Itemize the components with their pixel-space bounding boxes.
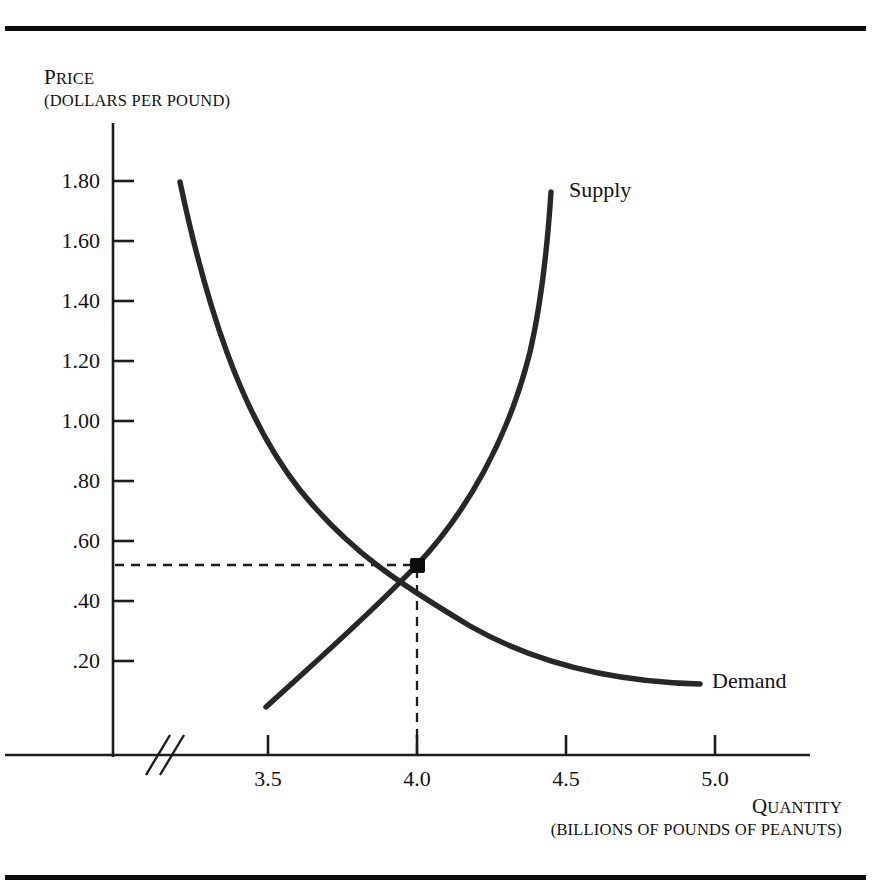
y-tick-label: 1.60 [14,228,100,254]
y-tick-label: .40 [14,588,100,614]
x-axis-title-main: QUANTITY [551,795,842,817]
x-axis-title: QUANTITY (BILLIONS OF POUNDS OF PEANUTS) [551,795,842,838]
y-tick-label: 1.40 [14,288,100,314]
y-tick-label: 1.80 [14,168,100,194]
demand-curve [180,182,700,684]
y-axis-title-lead: P [44,65,56,89]
y-axis-title: PRICE (DOLLARS PER POUND) [44,66,230,109]
y-tick-label: .80 [14,468,100,494]
demand-curve-label: Demand [712,668,787,694]
x-tick-label: 3.5 [223,766,313,792]
top-rule [5,26,866,31]
x-axis-title-sub: (BILLIONS OF POUNDS OF PEANUTS) [551,821,842,838]
x-axis-title-lead: Q [752,794,767,818]
y-axis-title-main: PRICE [44,66,230,88]
supply-curve-label: Supply [569,177,631,203]
y-axis-title-sub: (DOLLARS PER POUND) [44,92,230,109]
x-tick-label: 4.5 [521,766,611,792]
bottom-rule [5,875,866,880]
x-axis-ticks [268,735,715,755]
y-axis-ticks [113,181,134,661]
y-tick-label: .20 [14,648,100,674]
x-tick-label: 5.0 [670,766,760,792]
y-tick-label: 1.20 [14,348,100,374]
x-axis-title-rest: UANTITY [767,798,842,817]
y-tick-label: 1.00 [14,408,100,434]
x-tick-label: 4.0 [372,766,462,792]
figure-panel: PRICE (DOLLARS PER POUND) QUANTITY (BILL… [0,0,876,890]
supply-demand-chart [0,0,876,890]
y-tick-label: .60 [14,528,100,554]
equilibrium-point-marker [410,558,425,573]
supply-curve [266,192,551,707]
y-axis-title-rest: RICE [56,69,94,88]
